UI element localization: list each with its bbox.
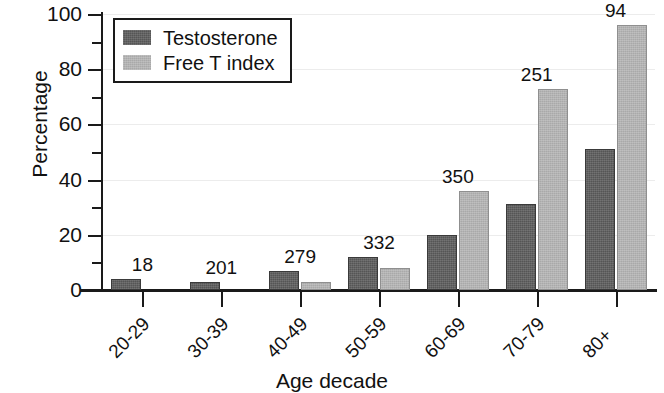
bar-group-annotation: 279 <box>284 247 316 266</box>
x-axis-tick-mark <box>379 292 381 307</box>
y-axis-tick-label: 60 <box>34 113 82 134</box>
bar-group-annotation: 350 <box>442 167 474 186</box>
bar-free-t-index <box>459 191 489 290</box>
y-axis-tick-mark <box>88 235 102 237</box>
y-axis-minor-tick-mark <box>92 97 102 99</box>
x-axis-category-label: 80+ <box>579 325 615 361</box>
bar-testosterone <box>269 271 299 290</box>
bar-group-annotation: 18 <box>132 255 153 274</box>
x-axis-tick-mark <box>300 292 302 307</box>
y-axis-tick-mark <box>88 124 102 126</box>
y-axis-tick-mark <box>88 290 102 292</box>
x-axis-category-label: 30-39 <box>184 314 232 362</box>
y-axis-minor-tick-mark <box>92 262 102 264</box>
bar-free-t-index <box>617 25 647 290</box>
y-axis-tick-label: 40 <box>34 169 82 190</box>
y-axis-tick-mark <box>88 180 102 182</box>
x-axis-category-label: 40-49 <box>263 314 311 362</box>
gridline <box>103 180 655 181</box>
y-axis-tick-mark <box>88 14 102 16</box>
y-axis-minor-tick-mark <box>92 152 102 154</box>
x-axis-category-label: 20-29 <box>105 314 153 362</box>
bar-group-annotation: 251 <box>521 65 553 84</box>
y-axis-minor-tick-mark <box>92 207 102 209</box>
bar-group-annotation: 94 <box>605 1 626 20</box>
bar-free-t-index <box>380 268 410 290</box>
x-axis-tick-mark <box>221 292 223 307</box>
x-axis-tick-mark <box>537 292 539 307</box>
legend-item-label: Free T index <box>163 53 275 73</box>
x-axis-tick-mark <box>142 292 144 307</box>
legend-swatch-icon <box>123 55 151 70</box>
bar-testosterone <box>111 279 141 290</box>
x-axis-tick-mark <box>458 292 460 307</box>
bar-free-t-index <box>538 89 568 290</box>
bar-testosterone <box>585 149 615 290</box>
bar-testosterone <box>348 257 378 290</box>
y-axis-tick-label: 80 <box>34 58 82 79</box>
bar-group-annotation: 332 <box>363 233 395 252</box>
x-axis-category-label: 50-59 <box>342 314 390 362</box>
legend-item-free-t-index: Free T index <box>123 50 278 75</box>
x-axis-title: Age decade <box>0 369 664 393</box>
y-axis-tick-label: 100 <box>34 3 82 24</box>
gridline <box>103 124 655 125</box>
bar-free-t-index <box>301 282 331 290</box>
y-axis-minor-tick-mark <box>92 42 102 44</box>
x-axis-category-label: 70-79 <box>500 314 548 362</box>
y-axis-tick-label: 20 <box>34 224 82 245</box>
legend-item-testosterone: Testosterone <box>123 25 278 50</box>
legend-item-label: Testosterone <box>163 28 278 48</box>
bar-testosterone <box>506 204 536 290</box>
x-axis-tick-mark <box>616 292 618 307</box>
gridline <box>103 14 655 15</box>
legend-swatch-icon <box>123 30 151 45</box>
x-axis-category-label: 60-69 <box>421 314 469 362</box>
bar-testosterone <box>190 282 220 290</box>
y-axis-tick-mark <box>88 69 102 71</box>
legend: Testosterone Free T index <box>113 18 292 83</box>
bar-testosterone <box>427 235 457 290</box>
y-axis-tick-label: 0 <box>34 279 82 300</box>
bar-group-annotation: 201 <box>205 258 237 277</box>
